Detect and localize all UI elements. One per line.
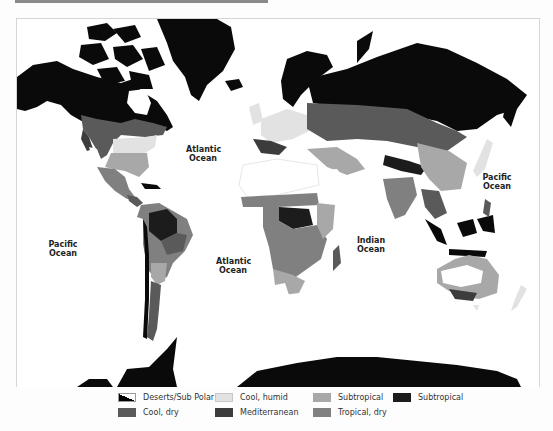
antarctic-peninsula xyxy=(117,337,177,387)
patagonia xyxy=(147,281,161,341)
legend-item-cool-humid: Cool, humid xyxy=(215,391,288,403)
legend-swatch-subtropical-dark xyxy=(393,393,411,402)
legend-swatch-tropical-dry xyxy=(313,408,331,417)
legend-label: Subtropical xyxy=(338,393,383,402)
ocean-label-pacific-east: Pacific Ocean xyxy=(481,173,513,191)
greenland xyxy=(157,19,235,101)
china xyxy=(417,143,467,191)
map-graphic xyxy=(17,19,539,387)
legend-swatch-deserts xyxy=(118,393,136,402)
se-asia xyxy=(421,189,447,219)
europe-mediterranean xyxy=(253,139,287,155)
ocean-label-pacific-west: Pacific Ocean xyxy=(46,240,80,258)
british-isles xyxy=(249,103,263,125)
sa-coast-desert xyxy=(137,217,143,255)
legend-label: Tropical, dry xyxy=(338,408,387,417)
legend-label: Cool, humid xyxy=(240,393,288,402)
legend-label: Cool, dry xyxy=(143,408,179,417)
ocean-label-atlantic-north: Atlantic Ocean xyxy=(186,145,220,163)
iceland xyxy=(225,79,243,91)
top-rule xyxy=(15,0,268,3)
sa-south xyxy=(151,263,167,285)
legend-item-cool-dry: Cool, dry xyxy=(118,406,179,418)
legend-item-tropical-dry: Tropical, dry xyxy=(313,406,387,418)
indonesia xyxy=(425,215,495,257)
madagascar xyxy=(333,245,341,271)
ocean-label-atlantic-south: Atlantic Ocean xyxy=(216,257,250,275)
philippines xyxy=(483,199,491,217)
legend-item-mediterranean: Mediterranean xyxy=(215,406,299,418)
new-zealand xyxy=(511,285,527,311)
novaya-zemlya xyxy=(357,31,373,63)
legend-label: Mediterranean xyxy=(240,408,299,417)
europe-cool-humid xyxy=(261,109,313,143)
na-cool-humid xyxy=(113,135,157,153)
antarctica xyxy=(237,357,521,387)
legend-swatch-cool-dry xyxy=(118,408,136,417)
ocean-label-indian: Indian Ocean xyxy=(356,236,386,254)
map-legend: Deserts/Sub Polar Cool, dry Cool, humid … xyxy=(0,386,553,431)
caribbean xyxy=(141,183,161,189)
india xyxy=(383,177,417,219)
world-climate-map xyxy=(16,18,540,387)
legend-label: Subtropical xyxy=(418,393,463,402)
japan xyxy=(473,139,493,177)
legend-item-deserts-sub-polar: Deserts/Sub Polar xyxy=(118,391,214,403)
legend-swatch-mediterranean xyxy=(215,408,233,417)
legend-item-subtropical-light: Subtropical xyxy=(313,391,383,403)
legend-label: Deserts/Sub Polar xyxy=(143,393,214,402)
legend-item-subtropical-dark: Subtropical xyxy=(393,391,463,403)
north-africa xyxy=(239,159,319,197)
legend-swatch-subtropical-light xyxy=(313,393,331,402)
legend-swatch-cool-humid xyxy=(215,393,233,402)
central-america xyxy=(127,195,143,207)
tasmania xyxy=(473,305,479,311)
